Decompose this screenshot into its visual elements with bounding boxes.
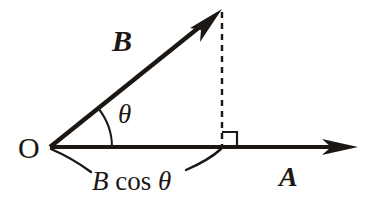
vector-b-label: B [112, 26, 132, 56]
vector-projection-figure: O B A θ B cos θ [0, 0, 369, 218]
angle-theta-label: θ [118, 101, 131, 128]
figure-canvas [0, 0, 369, 218]
projection-b-symbol: B [92, 166, 109, 196]
projection-cos-symbol: cos [115, 166, 151, 196]
vector-b-arrowhead [190, 9, 222, 42]
origin-label: O [18, 133, 40, 163]
vector-a-arrow [50, 139, 358, 155]
angle-arc-theta [98, 108, 112, 147]
projection-leader-left [51, 149, 91, 172]
projection-space-2 [151, 166, 158, 196]
projection-leader-right [186, 149, 221, 170]
vector-b-arrow [50, 9, 222, 147]
projection-theta-symbol: θ [158, 166, 171, 196]
right-angle-marker [222, 132, 237, 147]
projection-length-label: B cos θ [92, 168, 171, 195]
vector-a-label: A [279, 163, 298, 191]
